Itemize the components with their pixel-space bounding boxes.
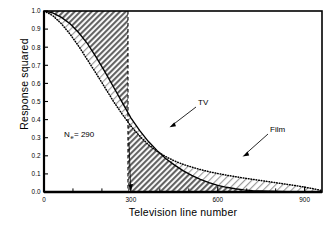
y-tick-label: 1.0: [32, 7, 41, 14]
ne-symbol: N: [64, 130, 70, 139]
y-tick-label: 0.0: [32, 188, 41, 195]
y-tick-label: 0.6: [32, 80, 41, 87]
y-tick-label: 0.5: [32, 98, 41, 105]
y-tick-label: 0.3: [32, 134, 41, 141]
y-tick-label: 0.4: [32, 116, 41, 123]
y-tick-label: 0.2: [32, 152, 41, 159]
y-tick-label: 0.1: [32, 170, 41, 177]
x-tick-label: 0: [42, 196, 46, 203]
x-tick-label: 900: [299, 196, 310, 203]
tv-annotation-label: TV: [198, 98, 209, 107]
film-annotation-label: Film: [270, 125, 285, 134]
x-tick-label: 300: [126, 196, 137, 203]
y-axis-label: Response squared: [18, 14, 30, 154]
y-tick-label: 0.9: [32, 25, 41, 32]
chart-canvas: 0.00.10.20.30.40.50.60.70.80.91.00300600…: [0, 0, 333, 226]
ne-value: = 290: [74, 130, 95, 139]
figure-container: 0.00.10.20.30.40.50.60.70.80.91.00300600…: [0, 0, 333, 226]
y-tick-label: 0.8: [32, 44, 41, 51]
y-tick-label: 0.7: [32, 62, 41, 69]
x-tick-label: 600: [212, 196, 223, 203]
x-axis-label: Television line number: [44, 206, 322, 218]
ne-annotation-label: N e = 290: [64, 130, 95, 140]
